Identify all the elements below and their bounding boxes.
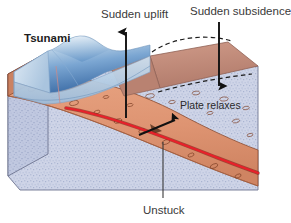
label-plate-relaxes: Plate relaxes [180,99,241,111]
diagram-canvas: Tsunami Sudden uplift Sudden subsidence … [0,0,291,223]
subduction-tsunami-diagram: Tsunami Sudden uplift Sudden subsidence … [0,0,291,223]
label-sudden-subsidence: Sudden subsidence [190,5,291,17]
label-unstuck: Unstuck [143,204,185,216]
label-sudden-uplift: Sudden uplift [101,8,169,20]
label-tsunami: Tsunami [24,32,70,44]
